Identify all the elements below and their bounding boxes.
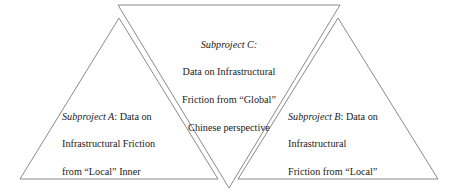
subproject-c-line-1: Data on Infrastructural — [120, 65, 338, 79]
subproject-a-line-2: from “Local” Inner — [62, 165, 194, 179]
subproject-a-first-line: Subproject A: Data on — [62, 110, 194, 124]
subproject-b-label: Subproject B — [288, 111, 341, 122]
subproject-a-label: Subproject A — [62, 111, 114, 122]
diagram-figure: Subproject C: Data on Infrastructural Fr… — [0, 0, 460, 194]
subproject-b-line-2: Friction from “Local” — [288, 165, 418, 179]
subproject-a-text-block: Subproject A: Data on Infrastructural Fr… — [62, 96, 194, 194]
subproject-a-line-3: Asian perspective — [62, 193, 194, 194]
subproject-b-line-3: African perspective — [288, 193, 418, 194]
subproject-b-text-block: Subproject B: Data on Infrastructural Fr… — [288, 96, 418, 194]
subproject-a-line-1: Infrastructural Friction — [62, 137, 194, 151]
subproject-a-label-suffix: : Data on — [114, 111, 151, 122]
subproject-c-label: Subproject C: — [120, 38, 338, 52]
subproject-b-first-line: Subproject B: Data on — [288, 110, 418, 124]
subproject-b-line-1: Infrastructural — [288, 137, 418, 151]
subproject-b-label-suffix: : Data on — [341, 111, 378, 122]
